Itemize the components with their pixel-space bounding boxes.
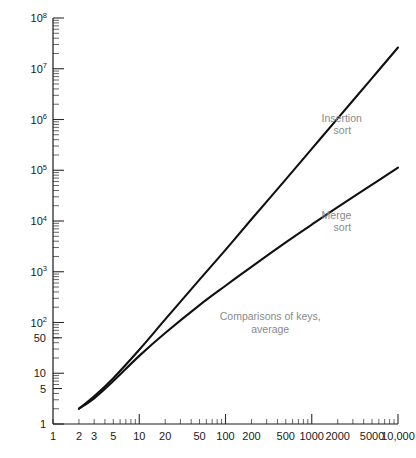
caption-label: Comparisons of keys,average [220, 310, 321, 335]
x-axis-ticks [53, 414, 398, 424]
log-log-plot: 151050102103104105106107108 123510205010… [0, 0, 416, 458]
insertion-sort-label: Insertionsort [322, 112, 362, 137]
svg-text:104: 104 [31, 214, 47, 228]
chart-annotations: InsertionsortMergesortComparisons of key… [220, 112, 362, 335]
svg-text:200: 200 [242, 430, 260, 442]
svg-text:102: 102 [31, 315, 47, 329]
svg-text:1: 1 [40, 418, 46, 430]
svg-text:50: 50 [34, 332, 46, 344]
y-axis-labels: 151050102103104105106107108 [31, 11, 47, 431]
svg-text:10: 10 [133, 430, 145, 442]
svg-text:10,000: 10,000 [381, 430, 415, 442]
svg-text:5: 5 [40, 383, 46, 395]
svg-text:50: 50 [193, 430, 205, 442]
svg-text:107: 107 [31, 61, 47, 75]
merge-sort-curve [79, 168, 398, 409]
svg-text:1000: 1000 [300, 430, 324, 442]
svg-text:500: 500 [277, 430, 295, 442]
svg-text:108: 108 [31, 11, 47, 25]
svg-text:2000: 2000 [325, 430, 349, 442]
svg-text:100: 100 [216, 430, 234, 442]
y-axis-ticks [53, 18, 64, 424]
svg-text:2: 2 [76, 430, 82, 442]
svg-text:1: 1 [50, 430, 56, 442]
merge-sort-label: Mergesort [322, 209, 352, 234]
x-axis-labels: 123510205010020050010002000500010,000 [50, 430, 415, 442]
svg-text:10: 10 [34, 367, 46, 379]
svg-text:105: 105 [31, 163, 47, 177]
svg-text:3: 3 [91, 430, 97, 442]
svg-text:103: 103 [31, 264, 47, 278]
svg-text:106: 106 [31, 112, 47, 126]
svg-text:5: 5 [110, 430, 116, 442]
chart-container: 151050102103104105106107108 123510205010… [0, 0, 416, 458]
svg-text:20: 20 [159, 430, 171, 442]
